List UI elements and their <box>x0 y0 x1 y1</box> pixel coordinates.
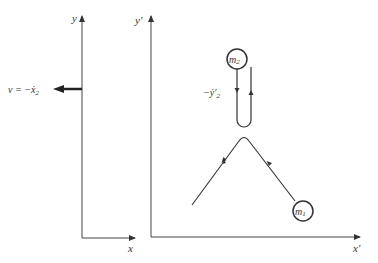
m2-trajectory <box>235 67 254 127</box>
mass-m1: m1 <box>293 201 313 221</box>
right-x-label: x′ <box>352 242 361 254</box>
velocity-label: v = −ẋ2 <box>8 84 39 97</box>
left-axes <box>82 16 135 238</box>
diagram: y x v = −ẋ2 y′ x′ m2 −ẏ′2 m1 <box>0 0 378 263</box>
m1-trajectory <box>192 138 295 206</box>
left-x-label: x <box>127 242 133 254</box>
velocity-arrow <box>53 85 82 93</box>
left-y-label: y <box>71 12 77 24</box>
right-y-label: y′ <box>134 14 143 26</box>
right-axes <box>151 16 360 237</box>
m2-velocity-label: −ẏ′2 <box>203 87 220 100</box>
mass-m2: m2 <box>227 49 247 69</box>
